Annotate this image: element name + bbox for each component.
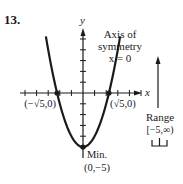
range-arrow-icon: [156, 56, 161, 64]
right-intercept-point: [106, 90, 111, 95]
graph-figure: 13. x y (−√5,0)(√5,0)Min.(0,−5) Axis of …: [0, 0, 183, 184]
range-value: [−5,∞): [147, 124, 174, 136]
vertex-label: (0,−5): [84, 162, 111, 174]
axis-symmetry-label-line1: Axis of: [104, 28, 137, 40]
range-endpoint-bracket-icon: [152, 138, 167, 146]
problem-number: 13.: [4, 12, 20, 27]
axis-symmetry-label-line2: symmetry: [98, 40, 142, 52]
y-axis-label: y: [79, 14, 85, 26]
left-intercept-point: [54, 90, 59, 95]
vertex-label: Min.: [87, 149, 107, 160]
vertex-point: [80, 144, 85, 149]
range-label: Range: [146, 111, 174, 123]
axis-symmetry-label-line3: x = 0: [109, 52, 132, 64]
y-axis-arrow-icon: [81, 28, 86, 36]
x-axis-label: x: [144, 86, 150, 98]
key-points: (−√5,0)(√5,0)Min.(0,−5): [24, 90, 136, 174]
right-intercept-label: (√5,0): [110, 98, 136, 110]
left-intercept-label: (−√5,0): [24, 98, 56, 110]
